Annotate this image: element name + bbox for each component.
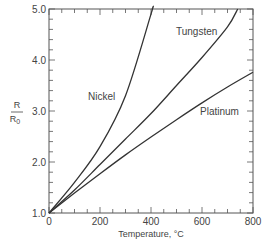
x-tick-label: 0 [46,216,52,227]
y-tick-label: 1.0 [32,208,46,219]
y-tick-label: 4.0 [32,55,46,66]
x-tick-label: 800 [245,216,262,227]
y-axis-title-numerator: R [14,100,21,110]
y-axis-title-denominator: R0 [10,114,21,125]
curve-nickel [49,6,153,213]
y-tick-label: 3.0 [32,106,46,117]
resistance-temperature-chart: 02004006008001.02.03.04.05.0 NickelTungs… [0,0,269,248]
curve-platinum [49,72,253,213]
x-axis-title: Temperature, °C [118,229,184,239]
label-platinum: Platinum [200,106,239,117]
x-tick-label: 400 [143,216,160,227]
x-tick-label: 200 [92,216,109,227]
y-tick-label: 2.0 [32,157,46,168]
label-tungsten: Tungsten [176,26,217,37]
y-tick-label: 5.0 [32,4,46,15]
x-tick-label: 600 [194,216,211,227]
label-nickel: Nickel [88,91,115,102]
